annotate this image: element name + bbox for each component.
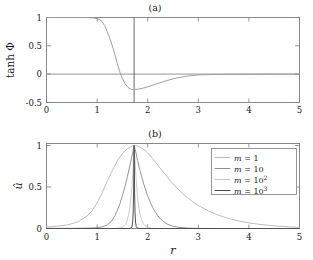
panel-a-xtick-3: 3 xyxy=(196,105,201,115)
panel-b-title: (b) xyxy=(148,128,162,139)
panel-b-xtick-0: 0 xyxy=(44,232,49,242)
figure-svg: (a) xyxy=(0,0,313,260)
panel-b-xtick-5: 5 xyxy=(297,232,302,242)
panel-b-legend: m = 1 m = 10 m = 102 m = 103 xyxy=(212,149,297,196)
panel-b-xlabel: r xyxy=(170,244,176,257)
panel-b-ylabel: û xyxy=(12,182,25,189)
panel-b-ytick-2: 0 xyxy=(37,224,42,234)
panel-b-ytick-1: 0.5 xyxy=(28,182,42,192)
panel-a-ytick-2: 0 xyxy=(37,69,42,79)
panel-a-ylabel: tanh Φ xyxy=(4,42,16,78)
panel-b-ytick-0: 1 xyxy=(37,141,42,151)
panel-b-xtick-4: 4 xyxy=(246,232,251,242)
panel-a-ytick-0: 1 xyxy=(37,13,42,23)
panel-b-xtick-1: 1 xyxy=(94,232,99,242)
figure-container: (a) xyxy=(0,0,313,260)
legend-label-m-1: m = 1 xyxy=(234,154,258,163)
panel-a-ytick-3: -0.5 xyxy=(26,98,42,108)
panel-a-ytick-1: 0.5 xyxy=(28,41,42,51)
panel-a-xtick-5: 5 xyxy=(297,105,302,115)
panel-a-title: (a) xyxy=(148,2,161,13)
panel-a-xtick-2: 2 xyxy=(145,105,150,115)
legend-label-m-1000: m = 103 xyxy=(234,185,268,196)
panel-a-xtick-1: 1 xyxy=(94,105,99,115)
panel-a-xtick-0: 0 xyxy=(44,105,49,115)
panel-b-xtick-2: 2 xyxy=(145,232,150,242)
panel-b-xtick-3: 3 xyxy=(196,232,201,242)
legend-label-m-10: m = 10 xyxy=(234,165,264,174)
panel-a-xtick-4: 4 xyxy=(246,105,251,115)
legend-label-m-100: m = 102 xyxy=(234,174,268,185)
